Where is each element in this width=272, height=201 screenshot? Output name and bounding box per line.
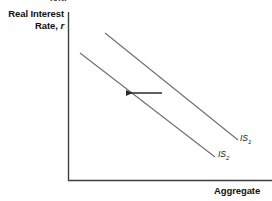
is1-curve-label: IS1 — [240, 133, 251, 145]
is-curve-figure: left. Real Interest Rate, r IS1 IS2 Aggr… — [0, 0, 272, 201]
is2-label-subscript: 2 — [226, 155, 229, 161]
is2-curve-label: IS2 — [218, 149, 229, 161]
is2-label-text: IS — [218, 149, 226, 159]
is1-label-subscript: 1 — [248, 139, 251, 145]
plot-area — [0, 0, 272, 201]
is1-label-text: IS — [240, 133, 248, 143]
x-axis-label: Aggregate — [214, 185, 260, 196]
